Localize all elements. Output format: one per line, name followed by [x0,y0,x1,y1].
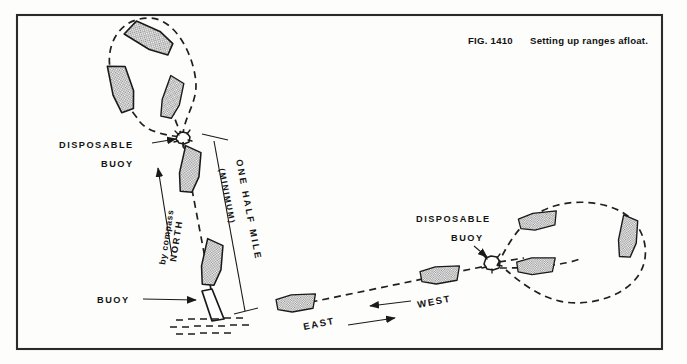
buoy-label: BUOY [97,295,130,305]
figure-caption-number: FIG. 1410 [468,35,513,46]
disposable-buoy-right-leader [474,246,487,257]
ranges-afloat-diagram: FIG. 1410 Setting up ranges afloat. DISP… [0,0,687,364]
boat-hull-icon [123,17,176,58]
east-label: EAST [302,315,336,332]
boat-hull-icon [106,61,139,113]
boat-hull-icon [516,256,556,275]
boat-hull-icon [177,145,204,193]
water-hatching [170,318,249,334]
disposable-buoy-right-label-line1: DISPOSABLE [416,214,491,224]
boat-hull-icon [420,264,461,285]
distance-qualifier-label: (MINIMUM) [217,168,237,225]
buoy-leader [143,299,196,300]
figure-page: FIG. 1410 Setting up ranges afloat. DISP… [0,0,687,364]
shore-buoy-icon [202,289,224,321]
disposable-buoy-left-label-line2: BUOY [101,159,134,169]
arrow-left-icon [370,301,411,306]
figure-caption-text: Setting up ranges afloat. [530,35,648,46]
disposable-buoy-left-leader [152,139,176,143]
west-label: WEST [416,293,452,310]
disposable-buoy-left-label-line1: DISPOSABLE [59,140,134,150]
boat-hull-icon [158,75,187,120]
disposable-buoy-right-label-line2: BUOY [451,233,484,243]
boat-hull-icon [616,215,640,259]
dimension-tick-bottom [234,308,258,314]
boat-hull-icon [199,238,226,286]
arrow-right-icon [348,318,395,325]
dimension-tick-top [202,134,228,140]
distance-main-label: ONE HALF MILE [234,158,263,261]
boat-hull-icon [276,292,317,313]
boat-hull-icon [518,209,559,232]
